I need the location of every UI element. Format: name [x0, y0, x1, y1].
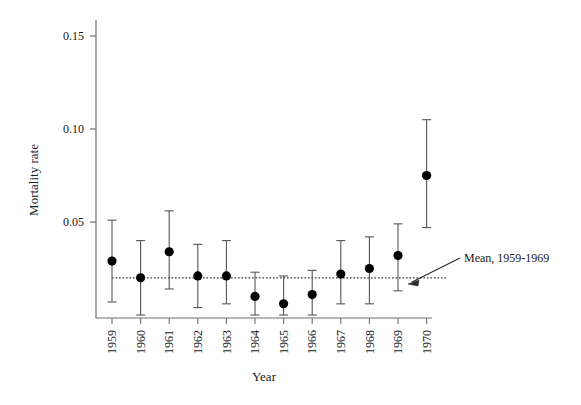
- data-point-1963: [222, 271, 231, 280]
- x-tick-label-1965: 1965: [277, 330, 291, 354]
- mean-annotation-label: Mean, 1959-1969: [464, 251, 549, 265]
- x-tick-label-1959: 1959: [105, 330, 119, 354]
- data-point-1965: [279, 299, 288, 308]
- y-axis-tick-labels: 0.150.100.05: [63, 29, 84, 229]
- x-tick-label-1961: 1961: [162, 330, 176, 354]
- x-tick-label-1964: 1964: [248, 330, 262, 354]
- x-tick-label-1963: 1963: [220, 330, 234, 354]
- x-tick-label-1967: 1967: [334, 330, 348, 354]
- error-bars-group: [108, 120, 432, 315]
- x-tick-label-1960: 1960: [134, 330, 148, 354]
- data-point-1962: [193, 271, 202, 280]
- data-point-1969: [393, 251, 402, 260]
- y-tick-label-0.10: 0.10: [63, 122, 84, 136]
- y-axis-title: Mortality rate: [26, 144, 41, 216]
- x-tick-label-1969: 1969: [391, 330, 405, 354]
- x-axis-title: Year: [252, 369, 277, 384]
- y-tick-label-0.05: 0.05: [63, 215, 84, 229]
- data-point-1967: [336, 269, 345, 278]
- y-tick-label-0.15: 0.15: [63, 29, 84, 43]
- data-point-1964: [250, 292, 259, 301]
- mortality-rate-chart: 0.150.100.05 195919601961196219631964196…: [0, 0, 581, 405]
- data-point-1960: [136, 273, 145, 282]
- x-tick-label-1968: 1968: [363, 330, 377, 354]
- error-bar-1965: [279, 276, 288, 315]
- x-tick-label-1970: 1970: [420, 330, 434, 354]
- x-tick-label-1962: 1962: [191, 330, 205, 354]
- x-axis-tick-labels: 1959196019611962196319641965196619671968…: [105, 330, 434, 354]
- data-point-1966: [308, 290, 317, 299]
- x-axis-ticks: [112, 318, 427, 324]
- data-point-1970: [422, 171, 431, 180]
- x-tick-label-1966: 1966: [305, 330, 319, 354]
- data-point-markers: [107, 171, 431, 309]
- data-point-1959: [107, 256, 116, 265]
- chart-figure: 0.150.100.05 195919601961196219631964196…: [0, 0, 581, 405]
- y-axis-ticks: [90, 36, 96, 222]
- data-point-1961: [165, 247, 174, 256]
- data-point-1968: [365, 264, 374, 273]
- mean-annotation-arrow: [408, 258, 460, 286]
